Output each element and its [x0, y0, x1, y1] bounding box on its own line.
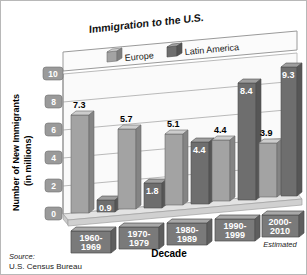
- value-label-latin-1960-1969: 0.9: [99, 203, 112, 213]
- x-category-2000-2010[interactable]: 2000- 2010: [262, 211, 304, 237]
- y-tick-label-8: 8: [51, 97, 56, 107]
- value-label-europe-1990-1999: 4.4: [214, 125, 227, 135]
- y-axis-title-line2: (in millions): [23, 135, 33, 186]
- y-tick-label-6: 6: [51, 125, 56, 135]
- bar-europe-1980-1989[interactable]: [165, 130, 188, 205]
- x-category-label-1970-1979-line2: 1979: [129, 238, 149, 248]
- bar-latin-2000-2010[interactable]: [281, 63, 302, 196]
- source-body: U.S. Census Bureau: [9, 262, 82, 271]
- x-axis-title: Decade: [151, 248, 187, 259]
- x-category-1990-1999[interactable]: 1990- 1999: [215, 215, 260, 241]
- bar-europe-2000-2010[interactable]: [259, 139, 282, 197]
- y-tick-label-10: 10: [48, 69, 58, 79]
- y-tick-8: 8: [45, 95, 62, 108]
- x-category-label-2000-2010-line2: 2010: [270, 226, 290, 236]
- value-label-latin-1970-1979: 1.8: [146, 186, 159, 196]
- y-tick-10: 10: [43, 67, 63, 80]
- value-label-latin-1980-1989: 4.4: [193, 145, 206, 155]
- value-label-europe-1980-1989: 5.1: [167, 119, 180, 129]
- chart-title-text: Immigration to the U.S.: [89, 11, 204, 35]
- value-label-europe-1960-1969: 7.3: [73, 100, 86, 110]
- y-axis-title: Number of New Immigrants (in millions): [11, 94, 33, 211]
- bar-latin-1990-1999[interactable]: [238, 79, 261, 200]
- estimated-annotation: Estimated: [263, 240, 297, 249]
- y-tick-4: 4: [45, 151, 62, 164]
- source-label: Source:: [9, 252, 35, 261]
- x-category-label-1960-1969-line2: 1969: [81, 242, 101, 252]
- bar-europe-1960-1969[interactable]: [71, 111, 94, 213]
- x-category-1970-1979[interactable]: 1970- 1979: [119, 223, 164, 249]
- x-category-label-1990-1999-line2: 1999: [225, 230, 245, 240]
- value-label-europe-2000-2010: 3.9: [260, 128, 273, 138]
- y-axis-title-line1: Number of New Immigrants: [11, 94, 21, 211]
- x-category-1980-1989[interactable]: 1980- 1989: [167, 219, 212, 245]
- y-tick-6: 6: [45, 123, 62, 136]
- bar-europe-1990-1999[interactable]: [212, 136, 235, 201]
- value-label-europe-1970-1979: 5.7: [120, 114, 133, 124]
- chart-title: Immigration to the U.S.: [89, 11, 204, 35]
- y-axis-ticks: 0 2 4 6 8 10: [43, 67, 63, 220]
- y-tick-0: 0: [45, 207, 62, 220]
- x-category-1960-1969[interactable]: 1960- 1969: [71, 227, 116, 253]
- source-note: Source: U.S. Census Bureau: [9, 252, 82, 271]
- y-tick-label-4: 4: [51, 153, 56, 163]
- y-tick-2: 2: [45, 179, 62, 192]
- y-tick-label-0: 0: [51, 209, 56, 219]
- chart-figure: Immigration to the U.S. Europe: [0, 0, 307, 275]
- y-tick-label-2: 2: [51, 181, 56, 191]
- value-label-latin-2000-2010: 9.3: [282, 70, 295, 80]
- immigration-bar-chart: Immigration to the U.S. Europe: [1, 1, 307, 275]
- bar-europe-1970-1979[interactable]: [118, 125, 141, 209]
- value-label-latin-1990-1999: 8.4: [240, 86, 253, 96]
- x-category-label-1980-1989-line2: 1989: [177, 234, 197, 244]
